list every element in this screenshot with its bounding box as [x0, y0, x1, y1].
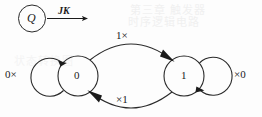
- state-1-label: 1: [181, 69, 187, 81]
- diagram-canvas: [0, 0, 262, 117]
- state-diagram-figure: 第三章 触发器 时序逻辑电路 状态转换图 Q JK 0 1: [0, 0, 262, 117]
- transition-arc-1-to-0: [90, 92, 172, 108]
- transition-arc-1-to-0-arrowhead: [87, 90, 102, 102]
- jk-input-label: JK: [58, 5, 70, 16]
- self-loop-state-0-label: 0×: [5, 68, 17, 80]
- state-0-label: 0: [74, 69, 80, 81]
- self-loop-state-1-label: ×0: [234, 68, 246, 80]
- transition-arc-0-to-1-arrowhead: [160, 50, 175, 62]
- transition-1-to-0-label: ×1: [116, 93, 128, 105]
- self-loop-state-0-arrowhead: [58, 60, 67, 66]
- transition-0-to-1-label: 1×: [116, 29, 128, 41]
- self-loop-state-0: [31, 58, 64, 96]
- transition-arc-0-to-1: [90, 44, 172, 60]
- q-node-label: Q: [27, 11, 36, 26]
